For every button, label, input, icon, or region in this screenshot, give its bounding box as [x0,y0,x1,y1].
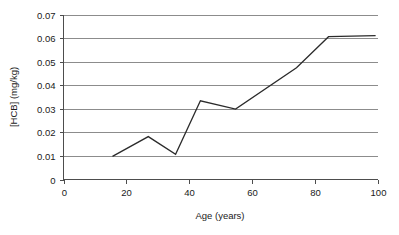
x-axis-tick-label: 0 [62,187,67,198]
y-axis-tick-label: 0.05 [37,57,56,68]
chart-figure: 00.010.020.030.040.050.060.07 0204060801… [0,0,399,235]
x-axis-tick-label: 100 [371,187,387,198]
y-axis-tick-label: 0.04 [37,80,56,91]
x-axis-tick-label: 80 [310,187,321,198]
y-axis-tick-label: 0.06 [37,33,56,44]
y-axis-title: [HCB] (mg/kg) [8,67,19,127]
y-axis-tick-label: 0.01 [37,151,56,162]
y-axis-tick-label: 0 [50,175,55,186]
y-axis-tick-label: 0.03 [37,104,56,115]
line-chart: 00.010.020.030.040.050.060.07 0204060801… [0,0,399,235]
x-axis-title: Age (years) [195,210,244,221]
chart-background [0,0,399,235]
y-axis-tick-label: 0.07 [37,10,56,21]
y-axis-tick-label: 0.02 [37,127,56,138]
x-axis-tick-label: 40 [184,187,195,198]
x-axis-tick-label: 20 [121,187,132,198]
x-axis-tick-label: 60 [247,187,258,198]
